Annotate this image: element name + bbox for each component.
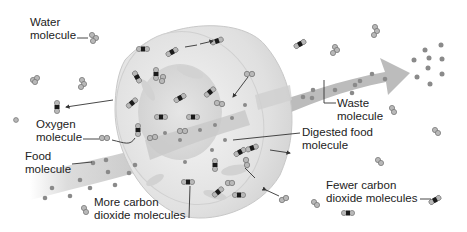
oxygen-in-arrow-2 — [266, 190, 279, 196]
co2-molecule — [212, 158, 217, 171]
oxygen-molecule — [147, 134, 157, 140]
label-fewer-carbon-dioxide: Fewer carbon dioxide molecules — [326, 179, 417, 205]
water-molecule — [371, 24, 379, 37]
co2-molecule — [186, 114, 199, 119]
co2-molecule — [135, 123, 140, 136]
oxygen-molecule — [214, 100, 224, 106]
oxygen-molecule — [159, 74, 165, 83]
co2-molecule — [54, 100, 59, 113]
co2-molecule — [232, 192, 245, 197]
label-digested-food-molecule: Digested food molecule — [302, 126, 373, 152]
water-molecule — [89, 32, 98, 43]
water-in-leader — [66, 100, 113, 107]
water-molecule — [389, 105, 396, 114]
water-molecule — [375, 157, 383, 165]
label-food-molecule: Food molecule — [25, 150, 71, 176]
water-molecule — [330, 44, 339, 55]
oxygen-molecule — [279, 195, 288, 202]
oxygen-molecule — [243, 157, 249, 167]
water-molecule — [432, 127, 440, 135]
water-molecule — [81, 205, 88, 214]
water-molecule — [14, 118, 19, 123]
co2-molecule — [341, 210, 354, 215]
co2-molecule — [428, 194, 442, 205]
label-waste-molecule: Waste molecule — [337, 97, 383, 123]
water-molecule — [30, 75, 39, 84]
co2-molecule — [293, 38, 307, 49]
co2-molecule — [153, 67, 158, 80]
co2-molecule — [181, 179, 194, 184]
label-more-carbon-dioxide: More carbon dioxide molecules — [94, 196, 185, 222]
water-molecule — [311, 199, 319, 207]
oxygen-molecule — [99, 135, 109, 140]
water-molecule — [78, 77, 86, 89]
label-oxygen-molecule: Oxygen molecule — [36, 118, 82, 144]
co2-molecule — [136, 46, 149, 51]
co2-molecule — [154, 114, 167, 119]
oxygen-molecule — [225, 180, 234, 185]
label-water-molecule: Water molecule — [30, 16, 76, 42]
expelled-waste-particles — [412, 43, 445, 87]
